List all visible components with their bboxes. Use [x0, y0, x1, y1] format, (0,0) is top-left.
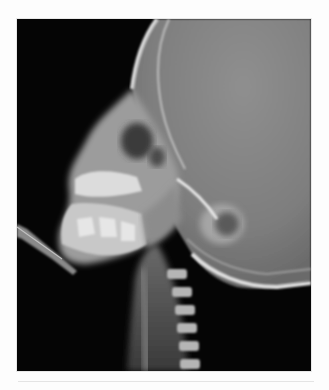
xray-image: [17, 19, 311, 371]
skull-radiograph: [17, 19, 311, 371]
divider-line: [18, 381, 314, 382]
